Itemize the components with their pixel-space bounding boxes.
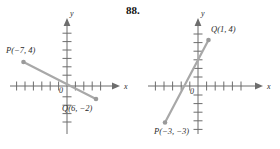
point-label-Q-right: Q(1, 4) bbox=[211, 24, 236, 34]
point-Q-right bbox=[206, 38, 211, 43]
point-P-left bbox=[21, 60, 26, 65]
origin-label-right: 0 bbox=[190, 87, 194, 96]
point-label-P-left: P(−7, 4) bbox=[6, 45, 35, 55]
x-axis-arrow-left bbox=[112, 83, 120, 90]
coordinate-plane-right: Q(1, 4) P(−3, −3) x y 0 bbox=[140, 0, 280, 149]
point-label-P-right: P(−3, −3) bbox=[154, 126, 189, 136]
y-axis-arrow-left bbox=[64, 18, 71, 26]
x-axis-arrow-right bbox=[255, 83, 263, 90]
point-P-right bbox=[163, 120, 168, 125]
graph-left-svg bbox=[0, 0, 140, 149]
segment-PQ-right bbox=[165, 40, 209, 123]
y-axis-label-right: y bbox=[201, 9, 205, 18]
y-axis-label-left: y bbox=[70, 9, 74, 18]
point-Q-left bbox=[94, 97, 99, 102]
coordinate-plane-left: P(−7, 4) Q(6, −2) x y 0 bbox=[0, 0, 140, 149]
x-axis-label-right: x bbox=[267, 82, 271, 91]
figure-container: 88. bbox=[0, 0, 280, 149]
x-axis-label-left: x bbox=[124, 82, 128, 91]
y-axis-arrow-right bbox=[195, 18, 202, 26]
origin-label-left: 0 bbox=[59, 86, 63, 95]
point-label-Q-left: Q(6, −2) bbox=[62, 103, 92, 113]
